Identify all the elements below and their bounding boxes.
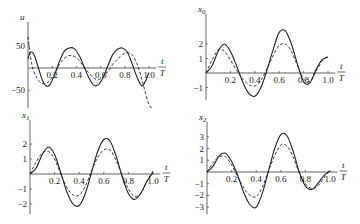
y-axis-label: u <box>20 12 25 22</box>
x-tick-label: 0.6 <box>98 176 110 186</box>
y-tick-label: 2 <box>199 39 204 49</box>
x-tick-label: 0.4 <box>251 174 263 184</box>
y-tick-label: −1 <box>193 83 203 93</box>
x-axis-label-den: T <box>339 73 345 83</box>
y-tick-label: 1 <box>23 154 28 164</box>
x-tick-label: 0.2 <box>49 176 60 186</box>
x-tick-label: 0.8 <box>119 70 131 80</box>
y-tick-label: 50 <box>16 41 26 51</box>
y-tick-label: −2 <box>194 190 204 200</box>
solid-series-line <box>206 30 328 97</box>
panel-x1: 0.20.40.60.81.021−1−2x1tT <box>17 110 170 214</box>
x-tick-label: 0.4 <box>71 70 83 80</box>
y-tick-label: −50 <box>11 85 26 95</box>
x-axis-label-den: T <box>164 174 170 184</box>
x-tick-label: 1.0 <box>322 75 334 85</box>
x-tick-label: 0.4 <box>249 75 261 85</box>
x-tick-label: 0.4 <box>74 176 86 186</box>
panel-u: 0.20.40.60.81.050−50utT <box>11 12 166 108</box>
figure: 0.20.40.60.81.050−50utT0.20.40.60.81.021… <box>0 0 360 224</box>
panel-x0: 0.20.40.60.81.021−1x0tT <box>193 4 345 100</box>
x-tick-label: 0.6 <box>274 75 286 85</box>
y-axis-label: x0 <box>197 4 206 16</box>
y-tick-label: −3 <box>194 202 204 212</box>
x-axis-label-num: t <box>161 56 164 66</box>
x-axis-label-den: T <box>160 68 166 78</box>
y-tick-label: −2 <box>17 199 27 209</box>
solid-series-line <box>30 138 153 206</box>
x-axis-label-num: t <box>165 162 168 172</box>
x-tick-label: 0.2 <box>225 75 236 85</box>
x-tick-label: 0.2 <box>226 174 237 184</box>
x-axis-label-num: t <box>340 61 343 71</box>
panel-x2: 0.20.40.60.81.0321−1−2−3x2tT <box>194 112 347 214</box>
y-axis-label: x2 <box>198 112 207 124</box>
x-tick-label: 0.8 <box>298 75 310 85</box>
x-tick-label: 1.0 <box>324 174 336 184</box>
x-axis-label-num: t <box>342 160 345 170</box>
x-tick-label: 1.0 <box>143 70 155 80</box>
y-tick-label: −1 <box>194 179 204 189</box>
y-tick-label: 1 <box>199 54 204 64</box>
x-tick-label: 0.6 <box>275 174 287 184</box>
x-axis-label-den: T <box>341 172 347 182</box>
y-tick-label: 2 <box>200 144 205 154</box>
solid-series-line <box>28 48 149 87</box>
x-tick-label: 0.6 <box>95 70 107 80</box>
y-tick-label: −1 <box>17 184 27 194</box>
y-tick-label: 1 <box>200 155 205 165</box>
y-tick-label: 2 <box>23 139 28 149</box>
y-axis-label: x1 <box>21 110 30 122</box>
y-tick-label: 3 <box>200 132 205 142</box>
